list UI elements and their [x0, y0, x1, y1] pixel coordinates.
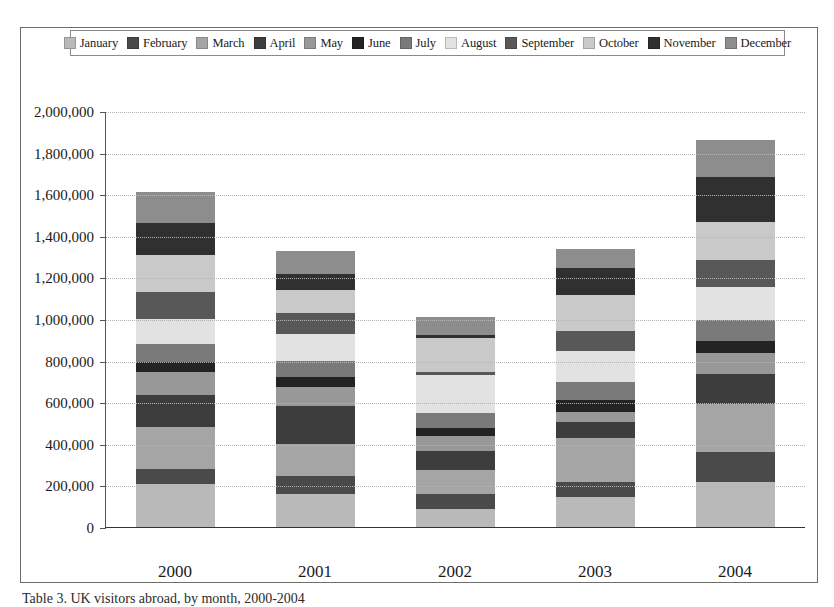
- gridline: [106, 486, 805, 487]
- bar-segment-july[interactable]: [136, 344, 215, 362]
- bar-segment-january[interactable]: [276, 494, 355, 527]
- legend-item-february: February: [127, 37, 187, 50]
- legend-label: August: [461, 37, 497, 50]
- bar-segment-february[interactable]: [696, 452, 775, 482]
- plot-area: 0200,000400,000600,000800,0001,000,0001,…: [105, 112, 805, 528]
- stacked-bar-2004[interactable]: [696, 140, 775, 527]
- y-axis-tick-label: 2,000,000: [34, 104, 103, 121]
- stacked-bar-2000[interactable]: [136, 192, 215, 527]
- bar-segment-november[interactable]: [556, 268, 635, 295]
- gridline: [106, 154, 805, 155]
- bar-segment-september[interactable]: [276, 313, 355, 334]
- x-axis-label-2003: 2003: [525, 556, 665, 588]
- figure-root: JanuaryFebruaryMarchAprilMayJuneJulyAugu…: [0, 0, 834, 607]
- legend-label: June: [368, 37, 391, 50]
- legend-item-october: October: [583, 37, 639, 50]
- bar-segment-august[interactable]: [556, 351, 635, 382]
- legend-label: October: [599, 37, 639, 50]
- bar-segment-august[interactable]: [416, 375, 495, 412]
- bar-segment-february[interactable]: [556, 482, 635, 497]
- legend-label: January: [80, 37, 118, 50]
- bar-segment-april[interactable]: [696, 374, 775, 404]
- y-axis-tick-label: 1,400,000: [34, 228, 103, 245]
- y-axis-tick-label: 1,000,000: [34, 312, 103, 329]
- bar-segment-july[interactable]: [276, 361, 355, 378]
- bar-segment-august[interactable]: [696, 287, 775, 320]
- y-axis-tick-label: 800,000: [45, 353, 103, 370]
- legend-label: April: [270, 37, 296, 50]
- legend-item-january: January: [64, 37, 118, 50]
- legend-item-november: November: [648, 37, 716, 50]
- x-axis-labels: 20002001200220032004: [105, 556, 805, 588]
- legend-label: September: [521, 37, 574, 50]
- bar-segment-april[interactable]: [556, 422, 635, 438]
- bar-segment-january[interactable]: [136, 484, 215, 527]
- bar-segment-july[interactable]: [416, 413, 495, 429]
- bar-segment-february[interactable]: [136, 469, 215, 485]
- bar-segment-september[interactable]: [556, 331, 635, 352]
- stacked-bar-2002[interactable]: [416, 317, 495, 527]
- legend-label: May: [320, 37, 343, 50]
- y-axis-tick-label: 400,000: [45, 436, 103, 453]
- bar-segment-september[interactable]: [136, 292, 215, 319]
- legend-item-june: June: [352, 37, 391, 50]
- gridline: [106, 195, 805, 196]
- bar-segment-april[interactable]: [416, 451, 495, 470]
- bar-segment-october[interactable]: [136, 255, 215, 292]
- bar-segment-june[interactable]: [556, 400, 635, 411]
- bar-segment-may[interactable]: [136, 372, 215, 395]
- legend-swatch-icon: [254, 37, 266, 49]
- bar-segment-june[interactable]: [136, 362, 215, 372]
- legend-item-may: May: [304, 37, 343, 50]
- y-axis-tick-label: 1,800,000: [34, 145, 103, 162]
- bar-segment-october[interactable]: [556, 295, 635, 330]
- bar-segment-june[interactable]: [696, 341, 775, 353]
- x-axis-label-2004: 2004: [665, 556, 805, 588]
- bar-segment-december[interactable]: [556, 249, 635, 268]
- bar-segment-january[interactable]: [696, 482, 775, 527]
- bar-segment-november[interactable]: [696, 177, 775, 223]
- bar-segment-may[interactable]: [556, 412, 635, 422]
- legend-label: July: [416, 37, 436, 50]
- bar-segment-may[interactable]: [416, 436, 495, 452]
- legend-item-september: September: [505, 37, 574, 50]
- bar-segment-november[interactable]: [276, 274, 355, 290]
- bar-segment-june[interactable]: [276, 377, 355, 386]
- plot-wrapper: 0200,000400,000600,000800,0001,000,0001,…: [105, 85, 805, 529]
- bar-segment-june[interactable]: [416, 428, 495, 435]
- legend-label: December: [741, 37, 792, 50]
- bar-segment-october[interactable]: [416, 338, 495, 372]
- bar-segment-march[interactable]: [276, 444, 355, 476]
- bar-segment-september[interactable]: [696, 260, 775, 287]
- bar-segment-november[interactable]: [136, 223, 215, 254]
- bar-segment-january[interactable]: [556, 497, 635, 527]
- bar-segment-july[interactable]: [556, 382, 635, 400]
- bar-segment-february[interactable]: [416, 494, 495, 510]
- y-axis-tick-label: 1,600,000: [34, 187, 103, 204]
- bar-segment-april[interactable]: [136, 395, 215, 427]
- bar-segment-october[interactable]: [696, 222, 775, 259]
- bar-segment-march[interactable]: [136, 427, 215, 469]
- bar-segment-january[interactable]: [416, 509, 495, 527]
- bar-segment-february[interactable]: [276, 476, 355, 494]
- bar-segment-december[interactable]: [276, 251, 355, 274]
- gridline: [106, 362, 805, 363]
- bar-segment-april[interactable]: [276, 406, 355, 443]
- stacked-bar-2003[interactable]: [556, 249, 635, 527]
- figure-caption: Table 3. UK visitors abroad, by month, 2…: [22, 591, 812, 607]
- gridline: [106, 403, 805, 404]
- legend-swatch-icon: [648, 37, 660, 49]
- bar-segment-december[interactable]: [696, 140, 775, 176]
- legend-item-december: December: [725, 37, 792, 50]
- y-axis-tick-label: 200,000: [45, 478, 103, 495]
- bar-segment-august[interactable]: [136, 319, 215, 344]
- bar-segment-july[interactable]: [696, 320, 775, 341]
- legend-label: February: [143, 37, 187, 50]
- bar-segment-october[interactable]: [276, 290, 355, 313]
- bar-segment-may[interactable]: [696, 353, 775, 374]
- x-axis-label-2002: 2002: [385, 556, 525, 588]
- bar-segment-august[interactable]: [276, 334, 355, 361]
- legend-swatch-icon: [400, 37, 412, 49]
- bar-segment-december[interactable]: [136, 192, 215, 223]
- bar-segment-march[interactable]: [416, 470, 495, 494]
